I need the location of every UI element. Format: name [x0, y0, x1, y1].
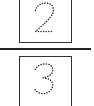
dotted-digit-3-icon: [20, 57, 71, 106]
dotted-digit-2-icon: [20, 0, 71, 42]
fraction-bar: [0, 48, 91, 50]
numerator-box[interactable]: 2: [19, 0, 72, 43]
denominator-box[interactable]: 3: [19, 56, 72, 106]
